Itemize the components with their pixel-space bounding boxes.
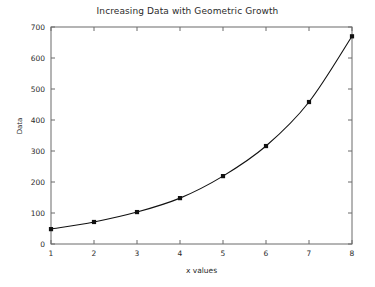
y-tick-label: 600 [31,54,46,63]
x-tick-label: 1 [49,249,54,258]
y-tick-label: 100 [31,209,46,218]
plot-area: 0100200300400500600700 12345678 [0,0,375,287]
y-tick-label: 400 [31,116,46,125]
x-tick-label: 6 [264,249,269,258]
x-tick-label: 2 [92,249,97,258]
y-tick-label: 500 [31,85,46,94]
data-point-marker [92,220,96,224]
y-tick-label: 300 [31,147,46,156]
chart-figure: Increasing Data with Geometric Growth Da… [0,0,375,287]
data-point-marker [49,227,53,231]
data-point-marker [307,100,311,104]
data-point-marker [178,196,182,200]
data-series-markers [49,34,354,231]
x-tick-label: 7 [307,249,312,258]
data-point-marker [221,174,225,178]
data-series-line [51,36,352,229]
data-point-marker [350,34,354,38]
y-tick-label: 200 [31,178,46,187]
x-tick-label: 4 [178,249,183,258]
x-tick-label: 5 [221,249,226,258]
y-tick-label: 0 [40,240,45,249]
y-tick-label: 700 [31,23,46,32]
y-axis-ticks: 0100200300400500600700 [31,23,352,249]
data-point-marker [135,210,139,214]
plot-frame [51,27,352,244]
x-tick-label: 8 [350,249,355,258]
x-tick-label: 3 [135,249,140,258]
data-point-marker [264,144,268,148]
